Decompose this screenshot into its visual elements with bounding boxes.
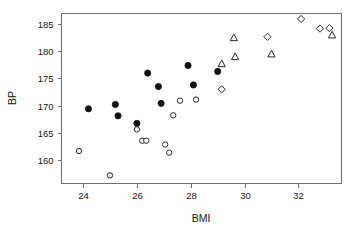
data-point-filled-circle: [215, 68, 221, 74]
data-point-filled-circle: [115, 113, 121, 119]
x-tick-label: 32: [293, 190, 304, 201]
data-point-filled-circle: [158, 100, 164, 106]
axis-tick-labels-group: 2426283032160165170175180185: [38, 19, 304, 201]
axis-ticks-group: [58, 25, 299, 188]
data-point-open-circle: [144, 138, 149, 143]
data-point-filled-circle: [145, 70, 151, 76]
data-point-diamond: [218, 86, 225, 93]
data-point-triangle: [230, 34, 237, 41]
y-axis-label: BP: [6, 91, 18, 105]
data-point-triangle: [268, 50, 275, 57]
data-point-filled-circle: [85, 106, 91, 112]
data-point-triangle: [218, 60, 225, 67]
data-point-open-circle: [107, 173, 112, 178]
y-tick-label: 180: [38, 46, 54, 57]
x-axis-label: BMI: [192, 212, 211, 224]
data-point-open-circle: [193, 97, 198, 102]
plot-canvas: 2426283032160165170175180185 BMI BP: [0, 0, 360, 231]
data-points-group: [76, 15, 335, 178]
x-tick-label: 24: [78, 190, 89, 201]
y-tick-label: 160: [38, 155, 54, 166]
data-point-filled-circle: [155, 83, 161, 89]
y-tick-label: 175: [38, 73, 54, 84]
data-point-triangle: [328, 31, 335, 38]
plot-frame-border: [62, 14, 342, 184]
y-tick-label: 170: [38, 101, 54, 112]
data-point-diamond: [298, 15, 305, 22]
data-point-diamond: [316, 25, 323, 32]
x-tick-label: 30: [240, 190, 251, 201]
y-tick-label: 165: [38, 128, 54, 139]
data-point-triangle: [232, 53, 239, 60]
data-point-open-circle: [162, 142, 167, 147]
data-point-open-circle: [166, 150, 171, 155]
y-tick-label: 185: [38, 19, 54, 30]
data-point-filled-circle: [112, 101, 118, 107]
x-tick-label: 28: [186, 190, 197, 201]
data-point-filled-circle: [190, 82, 196, 88]
data-point-filled-circle: [185, 62, 191, 68]
data-point-filled-circle: [134, 120, 140, 126]
data-point-open-circle: [171, 113, 176, 118]
data-point-open-circle: [134, 127, 139, 132]
scatter-plot-figure: 2426283032160165170175180185 BMI BP: [0, 0, 360, 231]
data-point-diamond: [264, 33, 271, 40]
x-tick-label: 26: [132, 190, 143, 201]
data-point-open-circle: [177, 98, 182, 103]
data-point-open-circle: [76, 148, 81, 153]
